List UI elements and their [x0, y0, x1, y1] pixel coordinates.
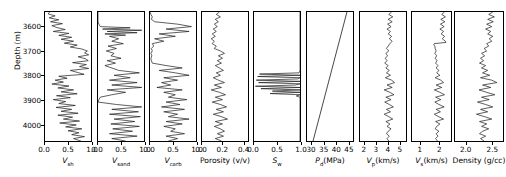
log-track-sw	[253, 11, 301, 142]
x-tick-label: 0.2	[217, 144, 228, 155]
x-tick-labels-vcarb: 0.00.51.0	[149, 144, 197, 155]
x-axis-label-sw: Sw	[272, 156, 281, 167]
log-curve-pd	[313, 12, 347, 141]
log-plot-area-vsh	[45, 12, 91, 141]
log-plot-area-density	[455, 12, 503, 141]
x-tick-label: 0.5	[167, 144, 178, 155]
log-track-vcarb	[149, 11, 197, 142]
x-tick-label: 5	[398, 144, 403, 155]
x-tick-label: 4	[386, 144, 391, 155]
x-tick-label: 0.5	[115, 144, 126, 155]
log-track-vp	[359, 11, 407, 142]
depth-tick-label: 3900	[4, 95, 41, 104]
x-axis-label-units: (MPa)	[323, 156, 344, 165]
log-plot-area-vp	[360, 12, 406, 141]
log-plot-area-sw	[254, 12, 300, 141]
log-curve-vsh	[48, 12, 88, 141]
x-tick-label: 3	[374, 144, 379, 155]
log-track-vsh	[44, 11, 92, 142]
log-plot-area-vcarb	[150, 12, 196, 141]
x-tick-label: 0.0	[143, 144, 154, 155]
x-tick-labels-vp: 2345	[359, 144, 407, 155]
x-tick-labels-vs: 12	[411, 144, 452, 155]
x-axis-label-subscript: sh	[67, 161, 73, 167]
x-tick-labels-density: 2.02.5	[454, 144, 504, 155]
log-plot-area-vsand	[98, 12, 144, 141]
log-track-pd	[306, 11, 354, 142]
log-curve-vp	[384, 12, 394, 141]
x-tick-label: 2.0	[460, 144, 471, 155]
x-axis-label-porosity: Porosity (v/v)	[200, 156, 250, 165]
x-axis-label-pd: Pd(MPa)	[315, 156, 344, 167]
x-axis-label-vs: Vs(km/s)	[415, 156, 447, 167]
x-axis-label-subscript: carb	[170, 161, 182, 167]
x-axis-label-subscript: w	[277, 161, 281, 167]
x-tick-label: 0.0	[38, 144, 49, 155]
log-track-vsand	[97, 11, 145, 142]
x-axis-label-vsh: Vsh	[62, 156, 73, 167]
log-curve-density	[476, 12, 496, 141]
x-tick-label: 0.0	[247, 144, 258, 155]
log-plot-area-vs	[412, 12, 451, 141]
x-axis-label-units: (km/s)	[375, 156, 399, 165]
x-tick-label: 2	[362, 144, 367, 155]
x-tick-labels-vsh: 0.00.51.0	[44, 144, 92, 155]
x-axis-label-units: (km/s)	[423, 156, 447, 165]
x-tick-labels-sw: 0.00.51.0	[253, 144, 301, 155]
log-track-vs	[411, 11, 452, 142]
x-tick-label: 0.5	[62, 144, 73, 155]
depth-tick-label: 4000	[4, 120, 41, 129]
log-track-porosity	[201, 11, 249, 142]
x-tick-labels-vsand: 0.00.51.0	[97, 144, 145, 155]
x-tick-label: 0.5	[271, 144, 282, 155]
x-axis-label-vp: Vp(km/s)	[367, 156, 400, 167]
x-tick-label: 35	[319, 144, 328, 155]
log-curve-sw	[255, 12, 300, 141]
x-tick-label: 0.0	[91, 144, 102, 155]
log-track-density	[454, 11, 504, 142]
x-tick-label: 40	[332, 144, 341, 155]
x-tick-label: 30	[307, 144, 316, 155]
x-tick-label: 0.0	[195, 144, 206, 155]
x-tick-labels-porosity: 0.00.20.4	[201, 144, 249, 155]
well-log-figure: Depth (m) 36003700380039004000 0.00.51.0…	[0, 0, 506, 177]
x-tick-label: 2	[437, 144, 442, 155]
log-curve-vcarb	[150, 12, 191, 141]
x-axis-label-density: Density (g/cc)	[453, 156, 506, 165]
depth-tick-label: 3600	[4, 21, 41, 30]
x-tick-labels-pd: 30354045	[306, 144, 354, 155]
log-plot-area-porosity	[202, 12, 248, 141]
x-axis-label-vcarb: Vcarb	[164, 156, 181, 167]
log-curve-porosity	[211, 12, 227, 141]
x-axis-label-vsand: Vsand	[112, 156, 130, 167]
depth-axis: Depth (m) 36003700380039004000	[0, 0, 41, 177]
x-tick-label: 1.0	[295, 144, 306, 155]
x-tick-label: 1	[418, 144, 423, 155]
log-plot-area-pd	[307, 12, 353, 141]
depth-tick-label: 3800	[4, 71, 41, 80]
depth-tick-label: 3700	[4, 46, 41, 55]
x-axis-label-subscript: sand	[117, 161, 130, 167]
log-curve-vs	[434, 12, 446, 141]
log-curve-vsand	[98, 12, 142, 141]
x-tick-label: 2.5	[487, 144, 498, 155]
x-tick-label: 45	[344, 144, 353, 155]
